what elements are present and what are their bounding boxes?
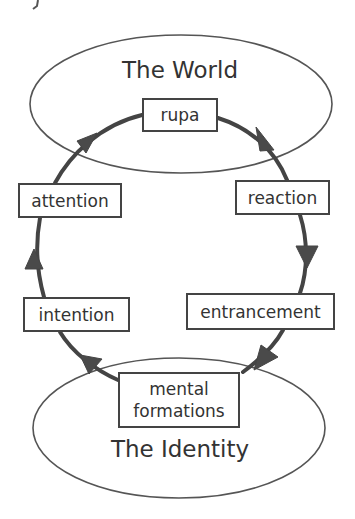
arrowhead-icon [254,345,278,370]
node-label-line1: mental [149,378,209,400]
arc-rupa-reaction [218,118,287,180]
node-intention: intention [23,297,130,332]
arrowhead-icon [256,127,274,151]
arrowhead-icon [296,246,318,268]
corner-mark [33,0,38,9]
node-label-line2: formations [133,400,224,422]
cycle-arcs [37,115,306,380]
world-title: The World [80,57,280,83]
node-mental-formations: mental formations [118,372,240,428]
node-label: entrancement [200,302,320,322]
node-label: rupa [161,105,200,125]
node-label: intention [39,305,115,325]
identity-title: The Identity [80,436,280,462]
node-attention: attention [18,183,122,218]
node-label: attention [31,191,109,211]
node-rupa: rupa [142,98,218,132]
node-reaction: reaction [235,180,330,215]
node-label: reaction [248,188,317,208]
node-entrancement: entrancement [186,293,335,330]
arrowhead-icon [25,249,43,269]
